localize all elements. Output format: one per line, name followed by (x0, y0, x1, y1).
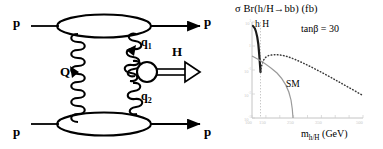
x-tick-label-150: 150 (259, 120, 266, 125)
gluon-Q-arrowhead (70, 66, 79, 78)
y-tick-1000-exp: 3 (249, 19, 251, 23)
y-tick-0.001-exp: -3 (248, 115, 251, 119)
cross-section-plot-panel: σ Br(h/H→bb) (fb) h H tanβ = 30 SM mh/H … (229, 0, 383, 149)
label-gluon-q1: q1 (141, 36, 152, 51)
y-tick-label-0.1: 10-1 (238, 67, 251, 74)
series-h-curve (253, 26, 261, 72)
feynman-diagram-panel: p p p p Q q1 q2 H (0, 0, 230, 149)
x-axis-title-unit: (GeV) (322, 128, 348, 139)
label-proton-in-bottom: p (13, 125, 20, 138)
annotation-h-H: h H (255, 20, 269, 30)
y-tick-label-0.01: 10-2 (238, 91, 251, 98)
y-tick-label-1000: 103 (238, 19, 251, 26)
y-tick-label-1: 1 (238, 43, 251, 48)
label-proton-out-bottom: p (204, 125, 211, 138)
chart-title: σ Br(h/H→bb) (fb) (235, 4, 318, 15)
figure-root: p p p p Q q1 q2 H (0, 0, 383, 149)
x-tick-label-350: 350 (315, 120, 322, 125)
label-proton-out-top: p (204, 15, 211, 28)
label-gluon-q2-sub: 2 (148, 96, 152, 105)
label-gluon-Q: Q (60, 65, 70, 78)
label-higgs: H (172, 45, 182, 58)
gluon-screening-Q (70, 34, 85, 122)
annotation-tanbeta: tanβ = 30 (301, 24, 339, 34)
x-tick-label-500: 500 (356, 120, 363, 125)
label-gluon-q2: q2 (141, 90, 152, 105)
label-gluon-q2-base: q (141, 89, 148, 103)
label-gluon-q1-base: q (141, 35, 148, 49)
plot-axes (252, 22, 363, 118)
series-H-curve (261, 55, 363, 95)
hard-vertex-blob (137, 62, 157, 82)
annotation-SM: SM (286, 80, 300, 90)
label-proton-in-top: p (13, 16, 20, 29)
label-gluon-q1-sub: 1 (148, 42, 152, 51)
x-axis-title-sub: h/H (309, 134, 320, 142)
x-axis-title: mh/H (GeV) (301, 129, 348, 142)
y-tick-0.1-exp: -1 (248, 67, 251, 71)
x-tick-label-250: 250 (287, 120, 294, 125)
feynman-diagram-svg (0, 0, 230, 149)
higgs-arrow (157, 62, 200, 82)
x-axis-title-base: m (301, 128, 309, 139)
y-tick-label-0.001: 10-3 (238, 115, 251, 122)
proton-blob-top (57, 15, 151, 38)
y-tick-0.01-exp: -2 (248, 91, 251, 95)
